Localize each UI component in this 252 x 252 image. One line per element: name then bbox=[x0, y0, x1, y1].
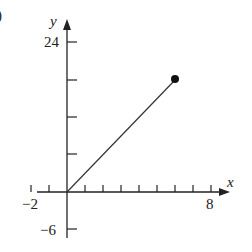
y-axis-arrow-icon bbox=[63, 19, 71, 30]
y-max-label: 24 bbox=[44, 34, 60, 50]
x-max-label: 8 bbox=[206, 196, 214, 212]
y-ticks bbox=[67, 42, 77, 229]
data-segment bbox=[67, 80, 175, 192]
y-axis-label: y bbox=[48, 13, 57, 29]
y-min-label: −6 bbox=[40, 222, 56, 238]
panel-label: ) bbox=[0, 7, 2, 24]
chart: ) y x 24 −6 −2 8 bbox=[0, 0, 252, 252]
endpoint-marker bbox=[171, 75, 179, 83]
x-ticks bbox=[31, 185, 211, 192]
x-axis-label: x bbox=[226, 174, 234, 190]
x-min-label: −2 bbox=[22, 196, 38, 212]
